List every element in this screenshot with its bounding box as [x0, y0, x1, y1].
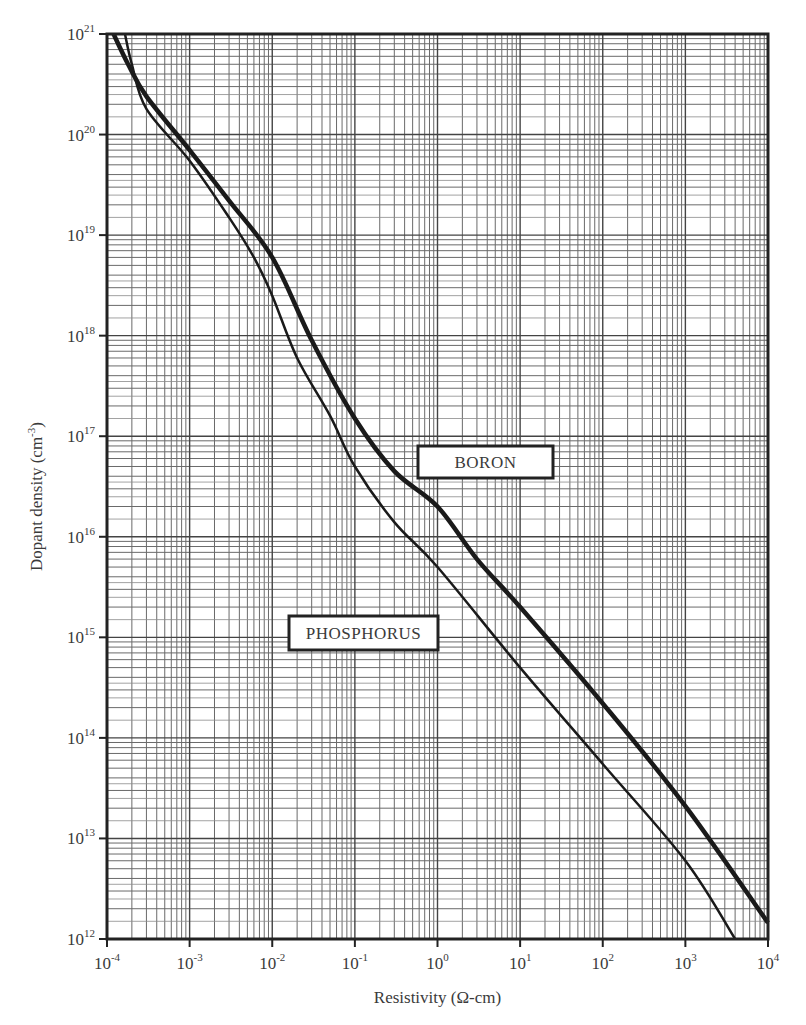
series-line-phosphorus	[125, 34, 735, 939]
x-tick-label: 103	[674, 951, 697, 973]
annotation-label: BORON	[454, 453, 516, 472]
x-axis-title: Resistivity (Ω-cm)	[374, 988, 501, 1007]
y-axis-title-close: )	[27, 422, 46, 428]
y-tick-label: 1021	[67, 22, 95, 44]
y-axis-title-base: Dopant density (cm	[27, 437, 46, 571]
x-tick-label: 10-2	[259, 951, 285, 973]
annotation-phosphorus: PHOSPHORUS	[289, 616, 438, 650]
data-series	[114, 34, 768, 939]
x-tick-label: 101	[509, 951, 532, 973]
x-tick-label: 104	[757, 951, 780, 973]
y-tick-label: 1014	[67, 726, 96, 748]
x-tick-label: 102	[592, 951, 615, 973]
x-tick-label: 100	[426, 951, 449, 973]
y-tick-label: 1015	[67, 625, 96, 647]
x-tick-label: 10-3	[177, 951, 204, 973]
y-axis-ticks: 1012101310141015101610171018101910201021	[67, 22, 107, 949]
x-tick-label: 10-4	[94, 951, 121, 973]
y-tick-label: 1018	[67, 324, 96, 346]
y-tick-label: 1017	[67, 424, 96, 446]
y-tick-label: 1012	[67, 927, 95, 949]
y-axis-title: Dopant density (cm-3)	[25, 422, 46, 571]
y-tick-label: 1020	[67, 123, 96, 145]
y-tick-label: 1013	[67, 826, 96, 848]
annotation-boron: BORON	[418, 446, 553, 478]
annotation-label: PHOSPHORUS	[306, 624, 422, 643]
resistivity-vs-dopant-density-chart: BORONPHOSPHORUS 10-410-310-210-110010110…	[0, 0, 806, 1025]
y-tick-label: 1019	[67, 223, 96, 245]
y-tick-label: 1016	[67, 525, 96, 547]
x-axis-ticks: 10-410-310-210-1100101102103104	[94, 939, 780, 973]
x-tick-label: 10-1	[342, 951, 368, 973]
